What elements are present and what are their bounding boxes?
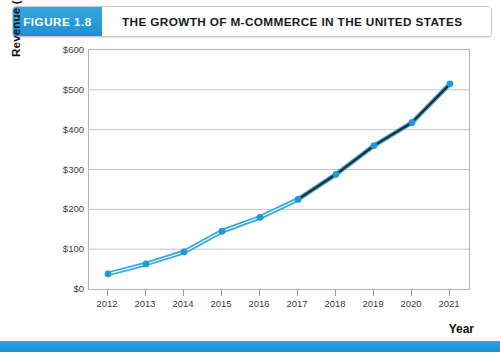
figure-title: THE GROWTH OF M-COMMERCE IN THE UNITED S…	[102, 7, 491, 36]
x-tick-label: 2019	[353, 298, 393, 309]
figure-number-tag: FIGURE 1.8	[13, 7, 102, 36]
x-tick-mark	[373, 290, 374, 296]
x-tick-mark	[259, 290, 260, 296]
x-tick-label: 2016	[239, 298, 279, 309]
series-projected	[298, 84, 450, 200]
y-tick-label: $400	[18, 124, 84, 135]
chart-area: Revenue (Billions) $0$100$200$300$400$50…	[14, 40, 488, 335]
x-tick-mark	[411, 290, 412, 296]
x-tick-label: 2013	[125, 298, 165, 309]
x-tick-mark	[107, 290, 108, 296]
x-tick-mark	[297, 290, 298, 296]
x-tick-label: 2017	[277, 298, 317, 309]
x-tick-label: 2014	[163, 298, 203, 309]
bottom-margin	[0, 352, 500, 361]
y-tick-label: $100	[18, 243, 84, 254]
data-point-marker	[143, 261, 150, 268]
data-point-marker	[371, 142, 378, 149]
series-actual	[108, 199, 298, 273]
data-point-marker	[295, 196, 302, 203]
x-tick-label: 2018	[315, 298, 355, 309]
data-point-marker	[447, 80, 454, 87]
x-tick-mark	[145, 290, 146, 296]
x-axis-title: Year	[449, 322, 474, 336]
y-tick-label: $500	[18, 84, 84, 95]
y-tick-label: $200	[18, 203, 84, 214]
y-tick-label: $0	[18, 283, 84, 294]
figure-header-bar: FIGURE 1.8 THE GROWTH OF M-COMMERCE IN T…	[12, 6, 492, 37]
bottom-accent-band	[0, 341, 500, 352]
x-tick-label: 2021	[429, 298, 469, 309]
figure-card: FIGURE 1.8 THE GROWTH OF M-COMMERCE IN T…	[0, 0, 500, 361]
plot-area	[88, 49, 470, 290]
x-tick-mark	[221, 290, 222, 296]
data-point-marker	[257, 214, 264, 221]
x-tick-label: 2015	[201, 298, 241, 309]
x-axis: 2012201320142015201620172018201920202021	[88, 290, 470, 314]
data-point-marker	[333, 171, 340, 178]
x-tick-mark	[449, 290, 450, 296]
y-axis-tick-labels: $0$100$200$300$400$500$600	[14, 49, 84, 290]
x-tick-mark	[183, 290, 184, 296]
x-tick-mark	[335, 290, 336, 296]
y-tick-label: $600	[18, 44, 84, 55]
data-point-marker	[409, 119, 416, 126]
y-tick-label: $300	[18, 164, 84, 175]
line-chart-svg	[89, 50, 469, 289]
data-point-marker	[181, 249, 188, 256]
data-point-marker	[105, 270, 112, 277]
data-point-marker	[219, 228, 226, 235]
x-tick-label: 2012	[87, 298, 127, 309]
x-tick-label: 2020	[391, 298, 431, 309]
